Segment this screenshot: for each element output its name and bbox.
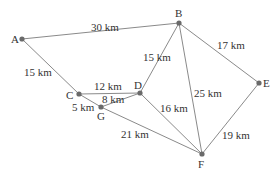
distance-graph: 30 km15 km15 km17 km25 km12 km5 km8 km16… xyxy=(0,0,280,178)
edge-weight-c-d: 12 km xyxy=(94,80,122,92)
node-c-dot-icon xyxy=(76,91,81,96)
edge-weight-b-d: 15 km xyxy=(143,51,171,63)
node-label-a: A xyxy=(11,33,19,45)
edge-weight-a-b: 30 km xyxy=(91,21,119,33)
edge-weight-a-c: 15 km xyxy=(24,66,52,78)
node-g-dot-icon xyxy=(98,104,103,109)
node-label-e: E xyxy=(263,77,270,89)
node-label-f: F xyxy=(198,158,204,170)
edge-weight-g-f: 21 km xyxy=(121,128,149,140)
node-a-dot-icon xyxy=(19,36,24,41)
edge-weight-b-e: 17 km xyxy=(217,39,245,51)
node-label-b: B xyxy=(175,7,182,19)
node-label-c: C xyxy=(66,89,73,101)
edge-weight-b-f: 25 km xyxy=(194,87,222,99)
nodes-layer: ABCDGEF xyxy=(11,7,270,170)
edge-weight-d-f: 16 km xyxy=(160,102,188,114)
node-f-dot-icon xyxy=(199,151,204,156)
node-b-dot-icon xyxy=(176,20,181,25)
node-label-g: G xyxy=(97,110,105,122)
edge-weight-g-d: 8 km xyxy=(102,93,125,105)
node-d-dot-icon xyxy=(137,90,142,95)
edge-weight-e-f: 19 km xyxy=(222,129,250,141)
node-e-dot-icon xyxy=(256,80,261,85)
edge-b-e xyxy=(179,23,259,83)
edge-weight-c-g: 5 km xyxy=(72,101,95,113)
node-label-d: D xyxy=(134,79,142,91)
edge-g-f xyxy=(101,107,202,154)
